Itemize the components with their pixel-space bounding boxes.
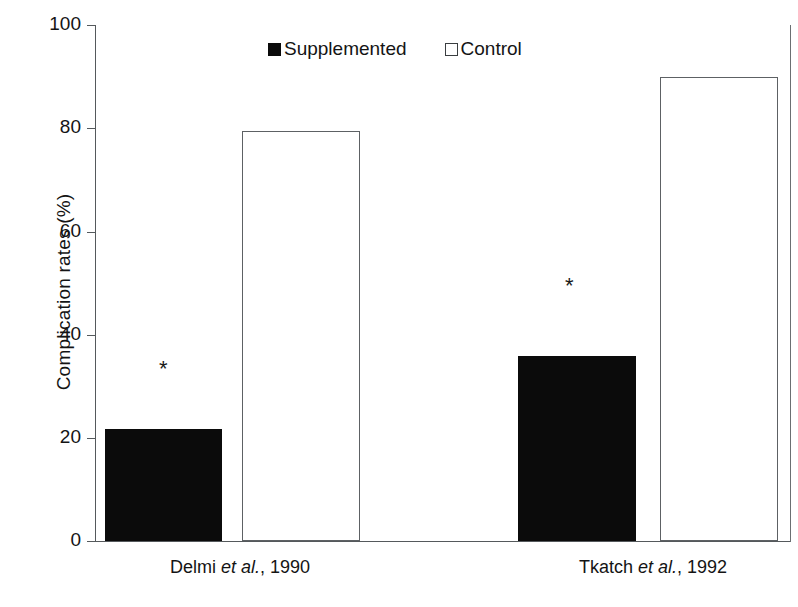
x-category-label-tkatch: Tkatch et al., 1992 (528, 557, 778, 578)
bar-chart-figure: Complication rates (%) 100 80 60 40 20 0… (0, 0, 798, 607)
plot-area: * * (95, 25, 790, 541)
category-year-tkatch: , 1992 (677, 557, 727, 577)
y-tick-100 (87, 25, 95, 26)
category-year-delmi: , 1990 (260, 557, 310, 577)
y-tick-0 (87, 541, 95, 542)
y-axis-title: Complication rates (%) (53, 102, 75, 482)
bar-tkatch-control (660, 77, 778, 541)
y-tick-label-100: 100 (21, 14, 81, 33)
y-tick-80 (87, 128, 95, 129)
y-tick-20 (87, 438, 95, 439)
y-tick-label-60: 60 (21, 221, 81, 240)
bar-tkatch-supplemented (518, 356, 636, 541)
y-tick-label-0: 0 (21, 530, 81, 549)
y-tick-label-20: 20 (21, 427, 81, 446)
y-tick-40 (87, 335, 95, 336)
star-glyph: * (565, 273, 574, 298)
x-category-label-delmi: Delmi et al., 1990 (115, 557, 365, 578)
y-tick-60 (87, 232, 95, 233)
bar-delmi-supplemented (105, 429, 222, 541)
category-name-tkatch: Tkatch (579, 557, 638, 577)
category-etal-delmi: et al. (221, 557, 260, 577)
y-tick-label-80: 80 (21, 117, 81, 136)
category-name-delmi: Delmi (170, 557, 221, 577)
y-tick-label-40: 40 (21, 324, 81, 343)
category-etal-tkatch: et al. (638, 557, 677, 577)
significance-star-delmi: * (159, 358, 168, 380)
plot-right-border (790, 25, 791, 542)
significance-star-tkatch: * (565, 275, 574, 297)
bar-delmi-control (242, 131, 360, 541)
x-axis-line (95, 541, 791, 542)
